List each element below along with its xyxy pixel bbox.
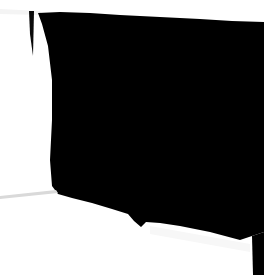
right-edge-dark-strip xyxy=(252,232,264,275)
silhouette-svg xyxy=(0,0,264,275)
scan-canvas: High contrast scan: large black irregula… xyxy=(0,0,264,275)
